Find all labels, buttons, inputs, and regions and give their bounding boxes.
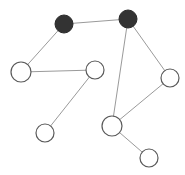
open-node-C [11, 62, 31, 82]
edge-A-B [64, 19, 128, 24]
edge-B-E [128, 19, 170, 78]
edge-B-F [112, 19, 128, 126]
open-node-D [86, 61, 104, 79]
filled-node-B [119, 10, 137, 28]
graph-diagram [0, 0, 185, 175]
open-node-F [102, 116, 122, 136]
edge-D-G [45, 70, 95, 133]
open-node-E [161, 69, 179, 87]
open-node-H [140, 149, 158, 167]
node-layer [11, 10, 179, 167]
open-node-G [36, 124, 54, 142]
filled-node-A [55, 15, 73, 33]
edge-C-D [21, 70, 95, 72]
edge-E-F [112, 78, 170, 126]
